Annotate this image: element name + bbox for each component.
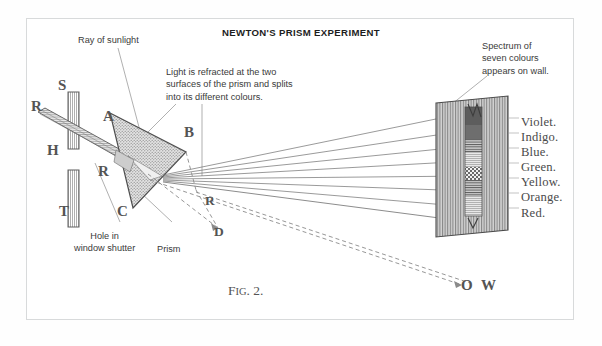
window-shutter	[68, 92, 79, 227]
colour-yellow: Yellow.	[521, 175, 563, 190]
label-D: D	[214, 224, 224, 240]
spectrum-band	[465, 107, 482, 216]
dash-to-W	[196, 192, 470, 283]
caption-smallcaps: IG	[236, 286, 247, 297]
colour-orange: Orange.	[521, 190, 563, 205]
label-O: O	[461, 277, 473, 294]
colour-indigo: Indigo.	[521, 130, 563, 145]
colour-violet: Violet.	[521, 115, 563, 130]
label-H: H	[47, 142, 59, 159]
figure-caption: FIG. 2.	[228, 283, 263, 299]
spectrum-colour-list: Violet. Indigo. Blue. Green. Yellow. Ora…	[521, 115, 563, 221]
spectrum-red	[465, 196, 482, 216]
ray-orange	[163, 180, 470, 191]
leader-prism	[140, 192, 172, 222]
annotation-hole-note: Hole in window shutter	[74, 230, 135, 255]
caption-suffix: . 2.	[247, 283, 264, 298]
label-A: A	[103, 108, 114, 125]
label-S: S	[58, 77, 66, 94]
annotation-ray-of-sunlight: Ray of sunlight	[78, 34, 139, 46]
construction-arrowheads	[211, 223, 462, 288]
spectrum-orange	[465, 180, 482, 196]
wall	[436, 96, 508, 237]
label-B: B	[184, 124, 194, 141]
annotation-prism-note: Prism	[157, 243, 180, 255]
label-R-source: R	[31, 98, 42, 115]
ray-violet	[163, 112, 470, 175]
construction-lines	[148, 152, 470, 285]
label-R-mid: R	[205, 193, 215, 209]
colour-blue: Blue.	[521, 145, 563, 160]
figure-page: NEWTON'S PRISM EXPERIMENT	[0, 0, 602, 346]
caption-prefix: F	[228, 283, 236, 298]
ray-indigo	[163, 130, 470, 176]
annotation-spectrum-note: Spectrum of seven colours appears on wal…	[482, 40, 549, 77]
label-R-prism: R	[98, 163, 109, 180]
spectrum-blue	[465, 139, 482, 153]
spectrum-yellow	[465, 167, 482, 180]
shutter-slat-lower	[68, 170, 79, 227]
colour-green: Green.	[521, 160, 563, 175]
colour-red: Red.	[521, 206, 563, 221]
ray-yellow	[163, 176, 470, 179]
label-W: W	[481, 277, 496, 294]
prism	[110, 113, 186, 208]
colour-list-ticks	[508, 118, 519, 208]
ray-blue	[163, 146, 470, 177]
dash-to-O	[150, 180, 462, 285]
label-T: T	[59, 203, 69, 220]
spectrum-green	[465, 153, 482, 167]
ray-green	[163, 161, 470, 178]
spectrum-indigo	[465, 125, 482, 139]
label-C: C	[117, 203, 128, 220]
annotation-refraction-note: Light is refracted at the two surfaces o…	[166, 66, 293, 103]
shutter-slat-upper	[68, 92, 79, 149]
